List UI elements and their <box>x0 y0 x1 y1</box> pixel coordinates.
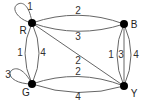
edge-label-R-G-right: 4 <box>40 47 46 58</box>
node-label-Y: Y <box>131 88 138 99</box>
edge-label-R-B-bottom: 3 <box>75 31 81 42</box>
edge-label-B-Y-right: 4 <box>133 49 139 60</box>
edge-label-G-Y-top: 2 <box>75 66 81 77</box>
edge-R-G-right <box>32 23 39 84</box>
edge-label-B-Y-mid: 3 <box>118 49 124 60</box>
node-label-G: G <box>22 87 30 98</box>
edge-G-Y-top <box>32 76 124 86</box>
edge-label-loop-R: 1 <box>27 1 33 12</box>
node-Y <box>120 82 128 90</box>
node-label-B: B <box>131 19 138 30</box>
edge-label-R-B-top: 2 <box>75 5 81 16</box>
edge-label-loop-G: 3 <box>5 69 11 80</box>
multigraph-diagram: R B G Y 1 3 2 3 1 4 2 2 4 1 3 4 <box>0 0 149 103</box>
edge-label-B-Y-left: 1 <box>108 49 114 60</box>
edge-R-B-top <box>32 15 124 24</box>
node-B <box>120 20 128 28</box>
node-R <box>28 19 36 27</box>
edge-label-R-Y: 2 <box>75 55 81 66</box>
edge-label-G-Y-bottom: 4 <box>75 91 81 102</box>
edge-label-R-G-left: 1 <box>17 47 23 58</box>
node-label-R: R <box>19 25 26 36</box>
edge-B-Y-right <box>124 24 131 86</box>
